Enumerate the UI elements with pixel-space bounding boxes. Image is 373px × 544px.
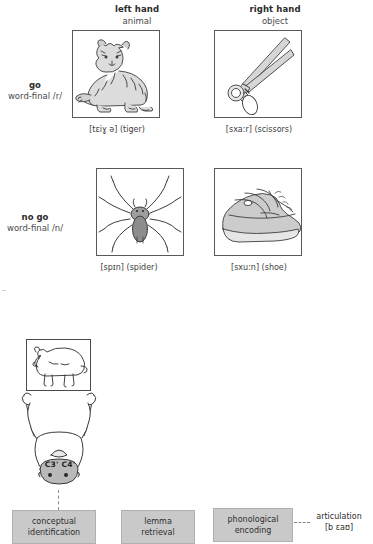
picture-frame-shoe — [214, 168, 302, 256]
column-header-right-hand-main: right hand — [210, 4, 340, 14]
articulation-text: articulation — [316, 512, 361, 521]
stage-box-phonological-encoding: phonological encoding — [213, 508, 293, 542]
column-header-left-hand-main: left hand — [72, 4, 202, 14]
picture-frame-spider — [96, 168, 184, 256]
page-edge-mark — [2, 290, 6, 291]
stimulus-table: left hand animal right hand object go wo… — [0, 0, 373, 312]
participant-figure — [13, 389, 105, 499]
shoe-drawing — [215, 169, 301, 255]
column-header-left-hand: left hand animal — [72, 4, 202, 26]
picture-frame-tiger — [72, 30, 160, 118]
articulation-label: articulation [b ɛaʊ] — [306, 511, 372, 533]
articulation-ipa: [b ɛaʊ] — [306, 522, 372, 533]
stimulus-cell-nogo-right: [sxu:n] (shoe) — [214, 168, 304, 272]
stage-lemma-line2: retrieval — [141, 528, 174, 537]
stimulus-caption-shoe: [sxu:n] (shoe) — [214, 263, 304, 272]
scissors-drawing — [215, 31, 301, 117]
row-header-go: go word-final /r/ — [0, 80, 70, 101]
row-header-go-sub: word-final /r/ — [0, 91, 70, 101]
stimulus-caption-scissors: [sxa:r] (scissors) — [214, 125, 304, 134]
picture-frame-scissors — [214, 30, 302, 118]
stage-box-conceptual-identification: conceptual identification — [12, 510, 96, 544]
stimulus-cell-go-left: [tɛiɣ ə] (tiger) — [72, 30, 162, 134]
stage-conceptual-line1: conceptual — [32, 517, 76, 526]
row-header-no-go-sub: word-final /n/ — [0, 223, 70, 233]
stimulus-cell-go-right: [sxa:r] (scissors) — [214, 30, 304, 134]
stage-phonological-line1: phonological — [228, 515, 279, 524]
stage-phonological-line2: encoding — [235, 526, 272, 535]
column-header-left-hand-sub: animal — [72, 16, 202, 26]
row-header-no-go-main: no go — [0, 212, 70, 222]
column-header-right-hand-sub: object — [210, 16, 340, 26]
column-header-right-hand: right hand object — [210, 4, 340, 26]
stage-conceptual-line2: identification — [28, 528, 80, 537]
spider-drawing — [97, 169, 183, 255]
picture-frame-bear — [26, 339, 91, 391]
stage-lemma-line1: lemma — [144, 517, 172, 526]
stage-box-lemma-retrieval: lemma retrieval — [121, 510, 195, 544]
bear-drawing — [27, 340, 90, 390]
process-diagram: C3' C4' conceptual identification lemma … — [0, 312, 373, 544]
row-header-no-go: no go word-final /n/ — [0, 212, 70, 233]
row-header-go-main: go — [0, 80, 70, 90]
stimulus-cell-nogo-left: [spɪn] (spider) — [96, 168, 186, 272]
tiger-drawing — [73, 31, 159, 117]
stimulus-caption-spider: [spɪn] (spider) — [72, 263, 186, 272]
stimulus-caption-tiger: [tɛiɣ ə] (tiger) — [72, 125, 162, 134]
connector-head-to-conceptual — [58, 490, 59, 510]
